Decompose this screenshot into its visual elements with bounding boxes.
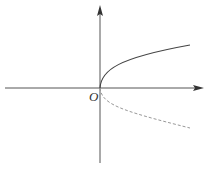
coordinate-plane: O — [0, 0, 215, 182]
origin-label: O — [89, 89, 99, 104]
dashed-curve-lower-branch — [100, 88, 190, 128]
solid-curve-upper-branch — [100, 45, 190, 88]
